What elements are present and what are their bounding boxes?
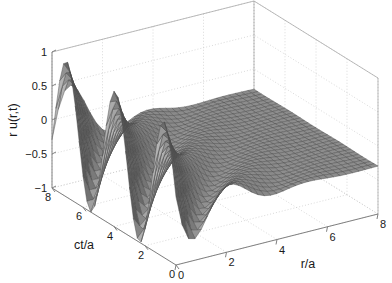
- plot-canvas: −1−0.500.510246802468r u(r,t)ct/ar/a: [0, 0, 392, 283]
- x-axis-label: r/a: [301, 257, 316, 271]
- z-tick-label: 0: [41, 114, 47, 126]
- z-tick-label: 0.5: [32, 80, 47, 92]
- x-tick-label: 6: [329, 231, 335, 243]
- x-tick-mark: [276, 240, 277, 245]
- box-edge-top-right: [254, 1, 378, 78]
- y-tick-label: 8: [45, 191, 51, 203]
- y-tick-label: 6: [76, 210, 82, 222]
- x-tick-mark: [327, 227, 328, 232]
- surface-mesh: [52, 62, 378, 242]
- surface-facet: [52, 86, 62, 139]
- z-tick-label: −0.5: [25, 148, 47, 160]
- z-axis-label: r u(r,t): [6, 103, 20, 136]
- y-tick-label: 2: [138, 249, 144, 261]
- surface-plot-figure: −1−0.500.510246802468r u(r,t)ct/ar/a: [0, 0, 392, 283]
- box-edge-top-left: [52, 1, 254, 52]
- y-axis-label: ct/a: [74, 238, 94, 252]
- y-tick-label: 4: [107, 230, 113, 242]
- z-tick-label: 1: [41, 46, 47, 58]
- x-tick-mark: [175, 265, 176, 270]
- x-tick-mark: [226, 252, 227, 257]
- x-tick-label: 0: [178, 269, 184, 281]
- x-tick-label: 4: [279, 244, 285, 256]
- y-tick-label: 0: [169, 268, 175, 280]
- x-tick-mark: [377, 214, 378, 219]
- x-tick-label: 2: [228, 256, 234, 268]
- x-tick-label: 8: [380, 218, 386, 230]
